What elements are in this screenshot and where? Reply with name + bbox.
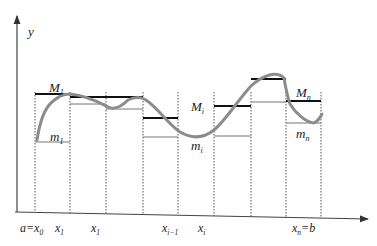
- annotations: M1m1MimiMnmn: [48, 80, 311, 155]
- x-tick-label: xi: [197, 221, 205, 237]
- x-tick-label: xn=b: [291, 221, 315, 237]
- annotation-m-n: mn: [296, 126, 309, 143]
- annotation-M-i: Mi: [190, 99, 204, 116]
- x-axis: [15, 212, 368, 219]
- x-tick-label: xi−1: [161, 221, 178, 237]
- function-curve: [37, 74, 322, 140]
- x-tick-label: a=x0: [20, 221, 43, 237]
- y-axis-label: y: [26, 24, 34, 39]
- annotation-m-i: mi: [191, 138, 203, 155]
- annotation-M-1: M1: [48, 80, 64, 97]
- riemann-sum-diagram: y M1m1MimiMnmn a=x0x1x1xi−1xixn=b: [0, 0, 377, 246]
- x-tick-label: x1: [90, 221, 100, 237]
- x-tick-labels: a=x0x1x1xi−1xixn=b: [20, 221, 315, 237]
- x-tick-label: x1: [54, 221, 64, 237]
- partition-lines: [35, 92, 321, 218]
- annotation-M-n: Mn: [295, 85, 311, 102]
- annotation-m-1: m1: [50, 129, 63, 146]
